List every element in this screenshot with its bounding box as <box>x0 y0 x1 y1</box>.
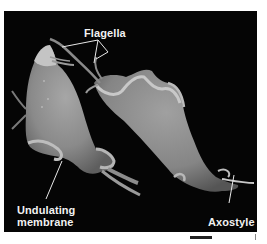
label-axostyle: Axostyle <box>208 216 255 228</box>
label-undulating-line2: membrane <box>17 216 75 228</box>
micrograph-image <box>4 11 257 232</box>
label-undulating-line1: Undulating <box>17 204 75 216</box>
micrograph-panel: Flagella Undulating membrane Axostyle <box>4 11 257 232</box>
scan-artifact <box>255 234 256 240</box>
scan-artifact <box>190 236 212 239</box>
label-flagella: Flagella <box>84 27 126 39</box>
undulating-membrane-pointer <box>46 161 62 199</box>
left-cell <box>12 45 140 195</box>
flagella-pointer <box>62 40 108 59</box>
label-undulating-membrane: Undulating membrane <box>17 204 75 228</box>
